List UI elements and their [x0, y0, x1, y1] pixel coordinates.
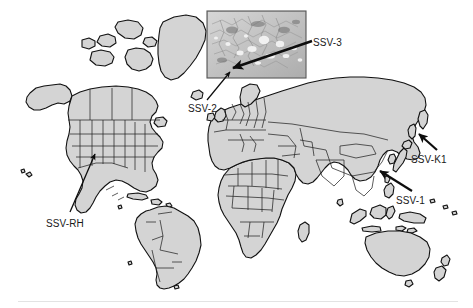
land-hawaii-small — [21, 169, 25, 173]
land-arctic-isle-b — [82, 38, 95, 49]
land-ellesmere — [115, 20, 143, 39]
land-hawaii — [26, 172, 32, 177]
land-island-pacific-a — [430, 199, 435, 203]
annotation-label-ssv-rh: SSV-RH — [46, 219, 84, 229]
land-sumatra — [350, 209, 366, 224]
world-map-figure: SSV-3 SSV-2 SSV-K1 SSV-1 SSV-RH — [0, 0, 473, 308]
land-island-atlantic — [118, 205, 122, 209]
land-new-zealand-south — [434, 266, 446, 281]
annotation-label-ssv-1: SSV-1 — [396, 196, 425, 206]
land-sulawesi — [386, 206, 395, 219]
border-ca-1 — [112, 193, 118, 196]
satellite-terrain-inset — [207, 11, 306, 78]
annotation-label-ssv-k1: SSV-K1 — [411, 155, 447, 165]
land-indonesia-small-a — [396, 226, 406, 231]
land-alaska — [26, 84, 72, 110]
land-africa — [218, 158, 296, 258]
land-island-pacific-c — [452, 211, 457, 215]
land-sri-lanka — [337, 199, 343, 206]
land-australia — [365, 231, 430, 276]
land-borneo — [370, 205, 386, 219]
land-arctic-isle-c — [143, 37, 157, 47]
land-iceland — [191, 90, 203, 100]
land-philippines — [384, 183, 394, 198]
land-new-zealand-north — [441, 255, 450, 266]
land-baffin-island — [125, 48, 153, 71]
land-greenland — [158, 15, 206, 80]
land-madagascar — [298, 222, 309, 242]
annotation-label-ssv-2: SSV-2 — [188, 104, 217, 114]
land-island-south-atlantic — [128, 261, 132, 265]
land-arctic-isle-a — [97, 34, 116, 47]
land-victoria-island — [90, 50, 114, 66]
land-north-america — [66, 86, 163, 213]
inset-terrain — [208, 12, 305, 77]
land-falklands — [174, 285, 179, 289]
land-new-guinea — [399, 212, 426, 223]
land-cuba — [127, 193, 148, 200]
land-tasmania — [405, 280, 413, 287]
land-java — [362, 226, 381, 232]
arrow-ssv-k1 — [419, 134, 437, 150]
land-newfoundland — [154, 117, 167, 127]
land-hispaniola — [151, 199, 162, 205]
bottom-divider — [18, 301, 458, 302]
border-mexico-guat — [106, 186, 114, 190]
border-ca-2 — [118, 197, 124, 200]
land-south-america — [135, 206, 201, 289]
land-kamchatka — [418, 110, 428, 129]
land-island-pacific-b — [443, 205, 448, 209]
world-map — [0, 0, 473, 308]
annotation-label-ssv-3: SSV-3 — [313, 38, 342, 48]
